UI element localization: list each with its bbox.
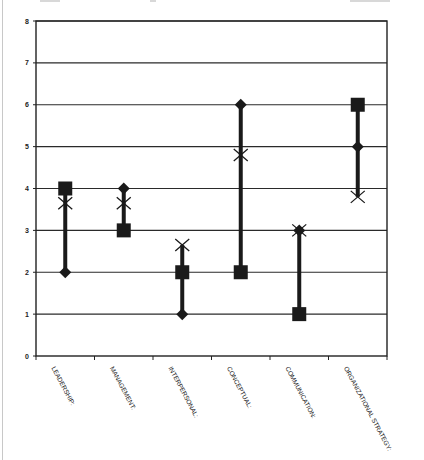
square-marker [292,307,306,321]
y-tick-label: 2 [25,269,29,276]
x-category-label: COMMUNICATION: [284,365,317,419]
y-tick-label: 0 [25,353,29,360]
x-category-label: LEADERSHIP: [50,365,76,406]
y-tick-label: 3 [25,227,29,234]
square-marker [175,265,189,279]
x-category-label: ORGANIZATIONAL STRATEGY: [343,365,394,452]
y-tick-label: 6 [25,101,29,108]
square-marker [117,223,131,237]
x-category-label: CONCEPTUAL: [226,365,254,409]
diamond-marker [59,266,71,278]
diamond-marker [352,141,364,153]
x-category-label: MANAGEMENT: [109,365,138,411]
diamond-marker [176,308,188,320]
y-tick-label: 7 [25,59,29,66]
diamond-marker [118,183,130,195]
y-tick-label: 4 [25,185,29,192]
square-marker [234,265,248,279]
diamond-marker [235,99,247,111]
y-tick-label: 8 [25,18,29,25]
range-chart: 012345678LEADERSHIP:MANAGEMENT:INTERPERS… [0,0,424,460]
square-marker [351,98,365,112]
square-marker [58,182,72,196]
x-category-label: INTERPERSONAL: [167,365,200,419]
y-tick-label: 1 [25,311,29,318]
y-tick-label: 5 [25,143,29,150]
